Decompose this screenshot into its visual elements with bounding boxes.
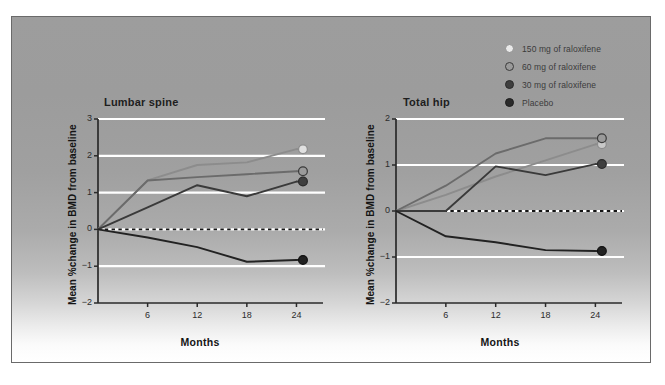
x-tick-label: 24 bbox=[580, 310, 610, 320]
x-tick-label: 6 bbox=[133, 310, 163, 320]
x-tick-label: 12 bbox=[481, 310, 511, 320]
y-tick-label: −1 bbox=[66, 260, 92, 270]
series-line bbox=[98, 171, 296, 229]
series-endpoint-marker bbox=[597, 247, 606, 256]
x-tick-label: 18 bbox=[232, 310, 262, 320]
y-tick-label: 2 bbox=[66, 150, 92, 160]
series-line bbox=[98, 149, 296, 229]
x-tick-label: 24 bbox=[281, 310, 311, 320]
y-tick-label: 2 bbox=[364, 113, 390, 123]
y-tick-label: −2 bbox=[66, 297, 92, 307]
y-tick-label: −2 bbox=[364, 297, 390, 307]
series-endpoint-marker bbox=[299, 167, 308, 176]
series-endpoint-marker bbox=[299, 177, 308, 186]
chart-lumbar-spine: Lumbar spine Mean %change in BMD from ba… bbox=[0, 0, 340, 385]
series-endpoint-marker bbox=[299, 256, 308, 265]
y-tick-label: 3 bbox=[66, 113, 92, 123]
series-line bbox=[396, 211, 595, 251]
series-endpoint-marker bbox=[597, 160, 606, 169]
x-tick-label: 12 bbox=[182, 310, 212, 320]
chart-plot-area bbox=[340, 0, 665, 385]
x-tick-label: 6 bbox=[431, 310, 461, 320]
y-tick-label: 1 bbox=[364, 159, 390, 169]
chart-total-hip: Total hip Mean %change in BMD from basel… bbox=[340, 0, 665, 385]
series-endpoint-marker bbox=[597, 134, 606, 143]
chart-plot-area bbox=[0, 0, 340, 385]
series-line bbox=[396, 164, 595, 211]
y-tick-label: −1 bbox=[364, 251, 390, 261]
y-tick-label: 0 bbox=[66, 223, 92, 233]
x-tick-label: 18 bbox=[531, 310, 561, 320]
y-tick-label: 1 bbox=[66, 187, 92, 197]
series-line bbox=[98, 182, 296, 230]
series-line bbox=[396, 138, 595, 211]
figure-root: 150 mg of raloxifene 60 mg of raloxifene… bbox=[0, 0, 665, 385]
series-line bbox=[98, 229, 296, 261]
y-tick-label: 0 bbox=[364, 205, 390, 215]
series-endpoint-marker bbox=[299, 145, 308, 154]
